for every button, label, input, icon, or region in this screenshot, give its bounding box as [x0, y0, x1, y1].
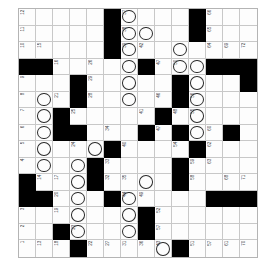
grid-cell[interactable]: 62 — [206, 141, 223, 158]
grid-cell[interactable]: 3 — [19, 207, 36, 224]
grid-cell[interactable] — [138, 75, 155, 92]
grid-cell[interactable]: 9 — [19, 75, 36, 92]
grid-cell[interactable] — [189, 207, 206, 224]
grid-cell[interactable] — [172, 207, 189, 224]
grid-cell[interactable] — [70, 42, 87, 59]
grid-cell[interactable]: 21 — [53, 92, 70, 109]
grid-cell[interactable] — [87, 42, 104, 59]
grid-cell[interactable] — [104, 75, 121, 92]
grid-cell[interactable]: 47 — [155, 125, 172, 142]
grid-cell[interactable] — [87, 26, 104, 43]
grid-cell[interactable]: 38 — [121, 26, 138, 43]
grid-cell[interactable]: 64 — [206, 42, 223, 59]
grid-cell[interactable]: 50 — [172, 59, 189, 76]
grid-cell[interactable] — [87, 191, 104, 208]
grid-cell[interactable]: 42 — [138, 42, 155, 59]
crossword-grid[interactable]: 1237661138651015394264697216264750929821… — [18, 8, 258, 258]
grid-cell[interactable] — [36, 125, 53, 142]
grid-cell[interactable] — [36, 75, 53, 92]
grid-cell[interactable]: 10 — [19, 42, 36, 59]
grid-cell[interactable]: 22 — [87, 240, 104, 257]
grid-cell[interactable] — [240, 141, 257, 158]
grid-cell[interactable] — [155, 26, 172, 43]
grid-cell[interactable] — [240, 158, 257, 175]
grid-cell[interactable] — [121, 59, 138, 76]
grid-cell[interactable] — [223, 224, 240, 241]
grid-cell[interactable] — [121, 75, 138, 92]
grid-cell[interactable] — [53, 42, 70, 59]
grid-cell[interactable]: 51 — [189, 240, 206, 257]
grid-cell[interactable]: 19 — [53, 207, 70, 224]
grid-cell[interactable] — [70, 207, 87, 224]
grid-cell[interactable]: 56 — [189, 92, 206, 109]
grid-cell[interactable] — [206, 207, 223, 224]
grid-cell[interactable]: 31 — [121, 240, 138, 257]
grid-cell[interactable] — [104, 207, 121, 224]
grid-cell[interactable] — [70, 9, 87, 26]
grid-cell[interactable]: 29 — [87, 75, 104, 92]
grid-cell[interactable] — [138, 92, 155, 109]
grid-cell[interactable] — [36, 224, 53, 241]
grid-cell[interactable] — [104, 92, 121, 109]
grid-cell[interactable] — [223, 75, 240, 92]
grid-cell[interactable] — [70, 26, 87, 43]
grid-cell[interactable] — [155, 191, 172, 208]
grid-cell[interactable]: 60 — [206, 125, 223, 142]
grid-cell[interactable]: 26 — [87, 59, 104, 76]
grid-cell[interactable] — [189, 224, 206, 241]
grid-cell[interactable] — [36, 158, 53, 175]
grid-cell[interactable] — [240, 224, 257, 241]
grid-cell[interactable] — [189, 75, 206, 92]
grid-cell[interactable]: 68 — [223, 174, 240, 191]
grid-cell[interactable] — [121, 92, 138, 109]
grid-cell[interactable] — [189, 42, 206, 59]
grid-cell[interactable] — [104, 59, 121, 76]
grid-cell[interactable] — [189, 191, 206, 208]
grid-cell[interactable] — [240, 108, 257, 125]
grid-cell[interactable] — [155, 42, 172, 59]
grid-cell[interactable] — [172, 224, 189, 241]
grid-cell[interactable]: 1 — [19, 240, 36, 257]
grid-cell[interactable] — [87, 224, 104, 241]
grid-cell[interactable] — [87, 141, 104, 158]
grid-cell[interactable] — [189, 125, 206, 142]
grid-cell[interactable]: 17 — [53, 174, 70, 191]
grid-cell[interactable] — [223, 9, 240, 26]
grid-cell[interactable] — [53, 26, 70, 43]
grid-cell[interactable] — [138, 26, 155, 43]
grid-cell[interactable]: 58 — [189, 174, 206, 191]
grid-cell[interactable] — [36, 92, 53, 109]
grid-cell[interactable] — [138, 158, 155, 175]
grid-cell[interactable] — [206, 92, 223, 109]
grid-cell[interactable]: 52 — [155, 207, 172, 224]
grid-cell[interactable] — [206, 174, 223, 191]
grid-cell[interactable]: 47 — [155, 59, 172, 76]
grid-cell[interactable]: 15 — [36, 42, 53, 59]
grid-cell[interactable] — [155, 158, 172, 175]
grid-cell[interactable] — [104, 224, 121, 241]
grid-cell[interactable]: 55 — [189, 108, 206, 125]
grid-cell[interactable] — [223, 141, 240, 158]
grid-cell[interactable] — [206, 224, 223, 241]
grid-cell[interactable] — [172, 42, 189, 59]
grid-cell[interactable]: 57 — [206, 240, 223, 257]
grid-cell[interactable] — [189, 59, 206, 76]
grid-cell[interactable] — [121, 125, 138, 142]
grid-cell[interactable]: 43 — [155, 240, 172, 257]
grid-cell[interactable]: 49 — [138, 191, 155, 208]
grid-cell[interactable] — [53, 9, 70, 26]
grid-cell[interactable]: 71 — [240, 174, 257, 191]
grid-cell[interactable] — [36, 207, 53, 224]
grid-cell[interactable]: 65 — [206, 26, 223, 43]
grid-cell[interactable] — [70, 174, 87, 191]
grid-cell[interactable] — [155, 141, 172, 158]
grid-cell[interactable]: 16 — [53, 59, 70, 76]
grid-cell[interactable] — [87, 207, 104, 224]
grid-cell[interactable] — [172, 26, 189, 43]
grid-cell[interactable] — [155, 75, 172, 92]
grid-cell[interactable] — [223, 158, 240, 175]
grid-cell[interactable]: 28 — [87, 92, 104, 109]
grid-cell[interactable] — [121, 158, 138, 175]
grid-cell[interactable] — [172, 191, 189, 208]
grid-cell[interactable]: 48 — [172, 108, 189, 125]
